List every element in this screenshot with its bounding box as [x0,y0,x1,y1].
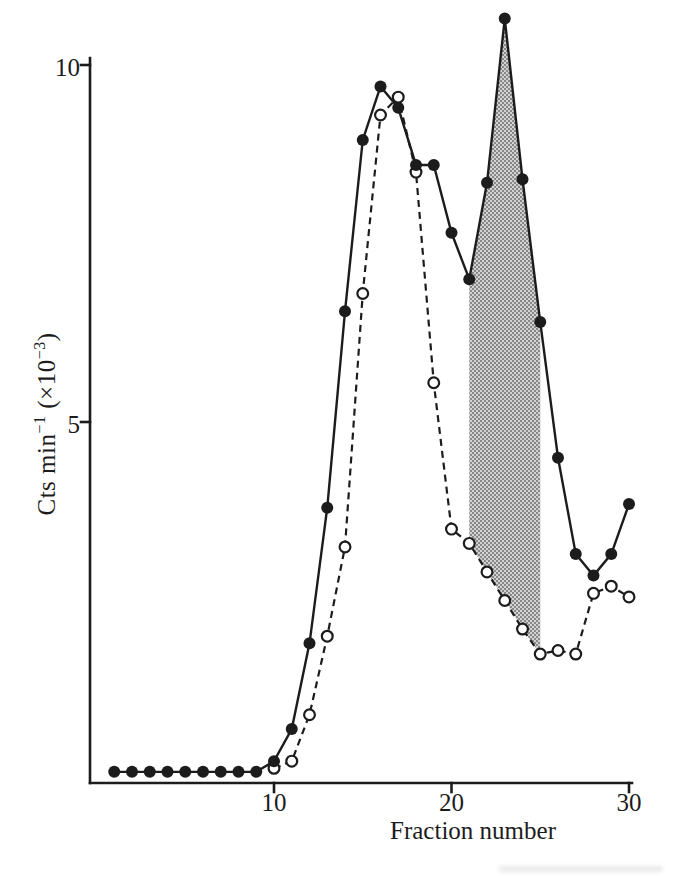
y-tick-label: 10 [55,54,80,81]
x-tick-label: 30 [617,789,642,816]
open-circle-marker [553,645,564,656]
filled-circle-marker [499,13,511,25]
filled-circle-marker [286,723,298,735]
filled-circle-marker [108,766,120,778]
open-circle-marker [375,110,386,121]
open-circle-marker [499,595,510,606]
filled-circle-marker [162,766,174,778]
filled-circle-marker [179,766,191,778]
filled-circle-marker [446,227,458,239]
open-circle-marker [570,649,581,660]
filled-circle-marker [428,159,440,171]
series-filled-circles-solid [108,13,635,778]
open-circle-marker [606,581,617,592]
y-axis-label-text: ) [33,332,60,341]
y-axis-label-text: Cts min [33,434,60,516]
y-axis-label: Cts min−1 (×10−3) [31,332,60,515]
filled-circle-marker [250,766,262,778]
filled-circle-marker [392,102,404,114]
filled-circle-marker [463,273,475,285]
filled-circle-marker [197,766,209,778]
filled-circle-marker [215,766,227,778]
open-circle-marker [464,538,475,549]
faint-print-artifact [498,866,663,872]
open-circle-marker [340,542,351,553]
open-circle-marker [535,649,546,660]
y-axis-label-superscript: −1 [31,416,48,434]
filled-circle-marker [481,177,493,189]
filled-circle-marker [144,766,156,778]
open-circle-marker [428,377,439,388]
open-circle-marker [393,92,404,103]
axes [81,58,632,792]
open-circle-marker [322,631,333,642]
plot-svg: 510102030 [0,0,676,876]
open-circle-marker [357,288,368,299]
series-line [114,19,629,772]
tick-labels: 510102030 [55,54,642,816]
figure: 510102030 Cts min−1 (×10−3) Fraction num… [0,0,676,876]
y-tick-label: 5 [68,411,81,438]
filled-circle-marker [552,452,564,464]
y-axis-label-text: (×10 [33,359,60,415]
filled-circle-marker [357,134,369,146]
filled-circle-marker [126,766,138,778]
filled-circle-marker [339,305,351,317]
open-circle-marker [517,624,528,635]
filled-circle-marker [304,637,316,649]
series-open-circles-dashed [269,92,635,774]
filled-circle-marker [375,80,387,92]
filled-circle-marker [233,766,245,778]
filled-circle-marker [534,316,546,328]
open-circle-marker [588,588,599,599]
x-axis-label: Fraction number [390,817,556,845]
filled-circle-marker [517,173,529,185]
y-axis-label-superscript: −3 [31,341,48,359]
open-circle-marker [286,756,297,767]
open-circle-marker [304,709,315,720]
filled-circle-marker [623,498,635,510]
filled-circle-marker [570,548,582,560]
x-tick-label: 10 [262,789,287,816]
filled-circle-marker [321,502,333,514]
open-circle-marker [624,592,635,603]
filled-circle-marker [605,548,617,560]
open-circle-marker [446,524,457,535]
filled-circle-marker [410,159,422,171]
open-circle-marker [482,567,493,578]
series-line [274,97,629,768]
filled-circle-marker [268,755,280,767]
filled-circle-marker [588,570,600,582]
x-tick-label: 20 [439,789,464,816]
